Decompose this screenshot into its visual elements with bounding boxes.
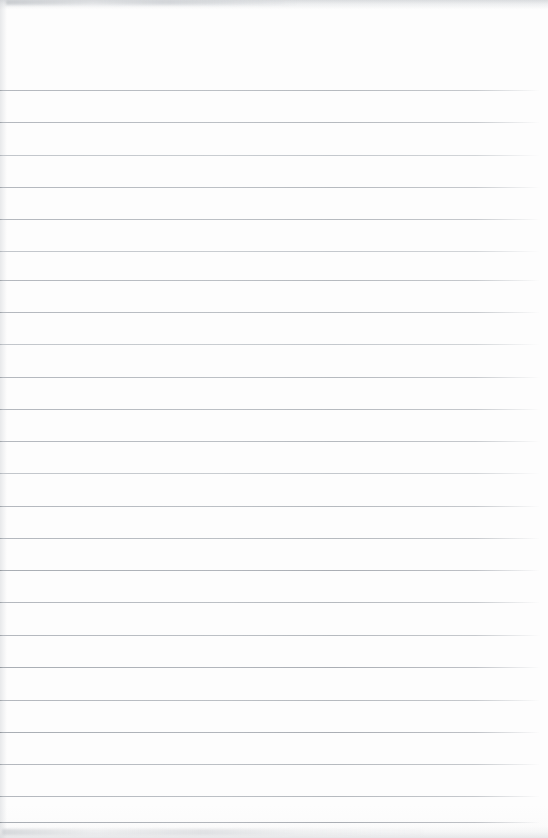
rule-line [0, 377, 540, 378]
rule-line [0, 155, 540, 156]
rule-line [0, 473, 540, 474]
rule-line [0, 570, 540, 571]
rule-line [0, 667, 540, 668]
rule-line [0, 122, 540, 123]
rule-line [0, 796, 540, 797]
rule-line [0, 732, 540, 733]
rule-line [0, 635, 540, 636]
rule-line [0, 822, 540, 823]
rule-line [0, 312, 540, 313]
rule-line [0, 409, 540, 410]
rule-line [0, 700, 540, 701]
rule-line [0, 538, 540, 539]
rule-line [0, 506, 540, 507]
rule-line [0, 764, 540, 765]
rule-line [0, 219, 540, 220]
rule-line [0, 280, 540, 281]
rule-line [0, 602, 540, 603]
lined-paper-page [0, 0, 548, 838]
rule-line [0, 441, 540, 442]
rule-line [0, 90, 540, 91]
rule-line [0, 187, 540, 188]
rule-line [0, 251, 540, 252]
rule-line [0, 344, 540, 345]
rule-line-group [0, 0, 548, 838]
